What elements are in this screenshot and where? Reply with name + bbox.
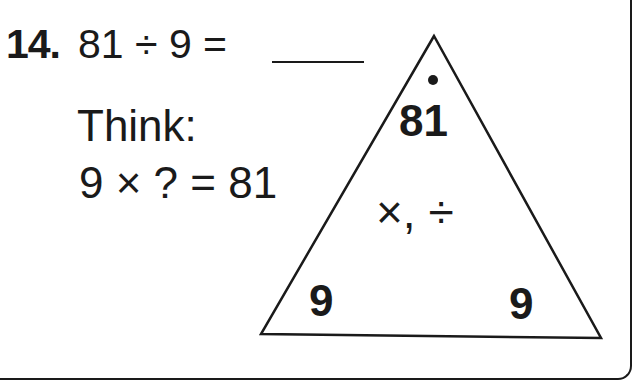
triangle-bottom-left-value: 9 (309, 276, 333, 326)
triangle-bottom-right-value: 9 (509, 279, 533, 329)
triangle-top-value: 81 (399, 96, 448, 146)
top-marker-dot-icon (428, 75, 438, 85)
triangle-operations: ×, ÷ (376, 185, 454, 239)
